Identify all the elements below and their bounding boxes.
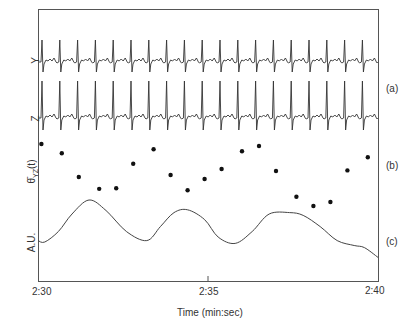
z-lead-label: Z <box>30 114 41 124</box>
panel-label-b: (b) <box>386 160 398 171</box>
theta-point <box>274 169 278 173</box>
x-tick-label-2: 2:40 <box>365 285 384 296</box>
theta-point <box>294 195 298 199</box>
theta-point <box>345 168 349 172</box>
x-tick-label-0: 2:30 <box>32 286 51 297</box>
theta-point <box>168 173 172 177</box>
ecg-trace-z <box>39 81 377 130</box>
theta-point <box>114 186 118 190</box>
theta-subscript: YZ <box>32 169 39 178</box>
theta-point <box>328 200 332 204</box>
theta-symbol: θ̄ <box>26 178 37 184</box>
theta-point <box>240 149 244 153</box>
theta-point <box>185 188 189 192</box>
theta-point <box>131 162 135 166</box>
theta-point <box>60 151 64 155</box>
theta-point <box>77 175 81 179</box>
x-tick-label-1: 2:35 <box>199 286 218 297</box>
theta-axis-label: θ̄YZ(t) <box>26 142 39 202</box>
panel-label-c: (c) <box>386 236 398 247</box>
theta-point <box>219 167 223 171</box>
theta-point <box>366 155 370 159</box>
theta-point <box>97 187 101 191</box>
theta-point <box>202 177 206 181</box>
chart-figure <box>0 0 413 330</box>
x-axis-title: Time (min:sec) <box>177 307 243 318</box>
ecg-trace-y <box>39 40 377 72</box>
theta-scatter-points <box>39 142 370 208</box>
au-axis-label: A.U. <box>26 228 37 258</box>
panel-label-a: (a) <box>386 83 398 94</box>
theta-argument: (t) <box>26 160 37 169</box>
theta-point <box>39 142 43 146</box>
theta-point <box>311 204 315 208</box>
au-curve <box>38 200 378 257</box>
y-lead-label: Y <box>30 56 41 66</box>
theta-point <box>257 144 261 148</box>
theta-point <box>151 147 155 151</box>
